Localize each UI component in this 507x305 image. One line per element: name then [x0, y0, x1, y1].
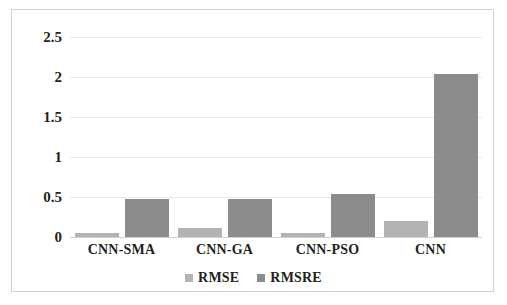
plot-area: 2.521.510.50	[70, 37, 482, 237]
x-axis-label-cnn-sma: CNN-SMA	[70, 242, 173, 258]
y-axis-tick-label: 2.5	[16, 30, 62, 45]
x-axis-label-cnn-pso: CNN-PSO	[276, 242, 379, 258]
y-axis-tick-label: 0	[16, 230, 62, 245]
chart-frame: 2.521.510.50 CNN-SMACNN-GACNN-PSOCNN RMS…	[11, 9, 494, 292]
legend-label: RMSRE	[270, 270, 322, 286]
bar-rmse-cnn-ga	[178, 228, 222, 237]
bar-series-container	[70, 37, 482, 237]
bar-rmse-cnn	[384, 221, 428, 237]
bar-rmsre-cnn-ga	[228, 199, 272, 237]
bar-group	[379, 37, 482, 237]
y-axis-tick-label: 1.5	[16, 110, 62, 125]
legend-item-rmsre[interactable]: RMSRE	[257, 270, 322, 286]
y-axis-tick-label: 2	[16, 70, 62, 85]
bar-group	[70, 37, 173, 237]
legend-swatch-icon	[257, 274, 265, 282]
y-axis-tick-label: 0.5	[16, 190, 62, 205]
legend-swatch-icon	[185, 274, 193, 282]
x-axis-label-cnn: CNN	[379, 242, 482, 258]
gridline-0	[70, 237, 482, 238]
bar-rmse-cnn-sma	[75, 233, 119, 237]
bar-chart-figure: 2.521.510.50 CNN-SMACNN-GACNN-PSOCNN RMS…	[0, 0, 507, 305]
bar-rmsre-cnn-sma	[125, 199, 169, 237]
chart-legend: RMSERMSRE	[12, 270, 495, 286]
bar-rmse-cnn-pso	[281, 233, 325, 237]
x-axis-label-cnn-ga: CNN-GA	[173, 242, 276, 258]
bar-group	[276, 37, 379, 237]
bar-group	[173, 37, 276, 237]
y-axis-tick-label: 1	[16, 150, 62, 165]
legend-item-rmse[interactable]: RMSE	[185, 270, 239, 286]
legend-label: RMSE	[198, 270, 239, 286]
bar-rmsre-cnn	[434, 74, 478, 237]
bar-rmsre-cnn-pso	[331, 194, 375, 237]
